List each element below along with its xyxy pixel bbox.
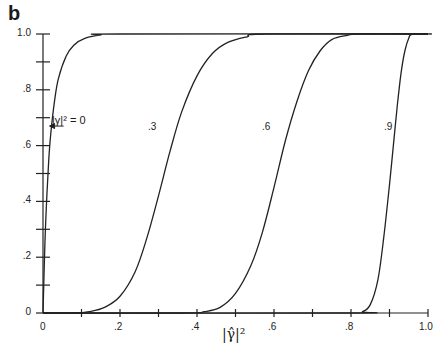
x-tick-label: .2 — [114, 321, 122, 332]
y-tick-label: 1.0 — [17, 27, 31, 38]
y-tick-label: 0 — [25, 306, 31, 317]
x-tick-label: .8 — [345, 321, 353, 332]
axes — [36, 34, 428, 317]
y-tick-label: .6 — [23, 139, 31, 150]
chart-plot-area — [0, 0, 447, 359]
x-tick-label: 1.0 — [419, 321, 433, 332]
curve-label-0.6: .6 — [262, 121, 270, 132]
curve-series-1 — [43, 34, 428, 313]
x-tick-label: .4 — [191, 321, 199, 332]
y-tick-label: .2 — [23, 250, 31, 261]
curve-label-gamma-0: |γ|² = 0 — [52, 114, 86, 126]
curve-label-0.9: .9 — [384, 121, 392, 132]
curves — [43, 34, 432, 313]
y-tick-label: .4 — [23, 194, 31, 205]
curve-series-0 — [43, 34, 428, 313]
x-axis-label: |γ̂|² — [222, 326, 245, 342]
x-tick-label: 0 — [40, 321, 46, 332]
y-tick-label: .8 — [23, 83, 31, 94]
curve-series-3 — [43, 34, 432, 313]
x-tick-label: .6 — [268, 321, 276, 332]
gamma0-label-text: |γ|² = 0 — [52, 114, 86, 126]
curve-series-2 — [43, 34, 428, 313]
curve-label-0.3: .3 — [148, 121, 156, 132]
